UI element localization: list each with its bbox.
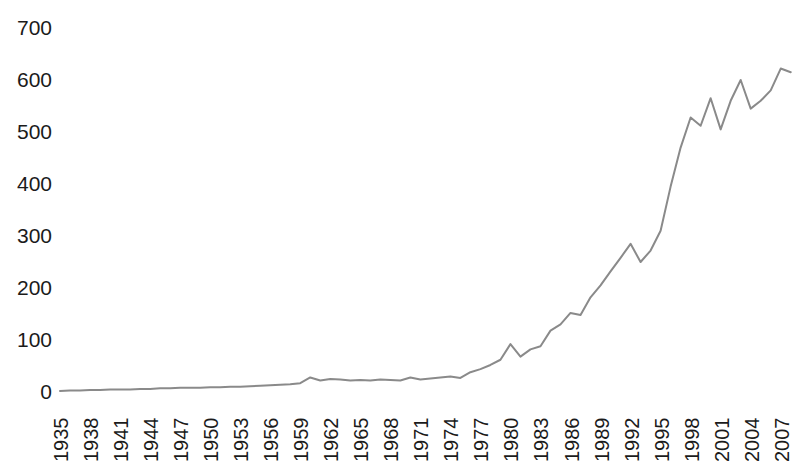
x-tick-label: 1974: [441, 418, 461, 463]
x-tick-label: 1944: [141, 418, 161, 463]
x-tick-label: 1986: [562, 418, 582, 463]
x-tick-label: 2004: [742, 418, 762, 463]
x-axis: 1935193819411944194719501953195619591962…: [0, 0, 806, 471]
x-tick-label: 1959: [291, 418, 311, 463]
x-tick-label: 1980: [501, 418, 521, 463]
x-tick-label: 1971: [411, 418, 431, 463]
x-tick-label: 1947: [171, 418, 191, 463]
line-chart: 0100200300400500600700 19351938194119441…: [0, 0, 806, 471]
x-tick-label: 1989: [592, 418, 612, 463]
x-tick-label: 1962: [321, 418, 341, 463]
x-tick-label: 1995: [652, 418, 672, 463]
x-tick-label: 1977: [471, 418, 491, 463]
x-tick-label: 1965: [351, 418, 371, 463]
x-tick-label: 1935: [51, 418, 71, 463]
x-tick-label: 1953: [231, 418, 251, 463]
x-tick-label: 1950: [201, 418, 221, 463]
x-tick-label: 2001: [712, 418, 732, 463]
x-tick-label: 1992: [622, 418, 642, 463]
x-tick-label: 1968: [381, 418, 401, 463]
x-tick-label: 1998: [682, 418, 702, 463]
x-tick-label: 2007: [772, 418, 792, 463]
x-tick-label: 1938: [81, 418, 101, 463]
x-tick-label: 1983: [531, 418, 551, 463]
x-tick-label: 1956: [261, 418, 281, 463]
x-tick-label: 1941: [111, 418, 131, 463]
